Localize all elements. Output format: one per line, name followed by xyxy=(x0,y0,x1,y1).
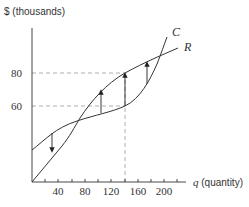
profit-arrows xyxy=(52,64,147,150)
curve-label-c: C xyxy=(172,25,181,39)
x-tick-120: 120 xyxy=(103,185,120,197)
x-tick-160: 160 xyxy=(130,185,147,197)
y-tick-80: 80 xyxy=(11,67,23,79)
revenue-curve-r xyxy=(32,48,178,182)
x-tick-80: 80 xyxy=(80,185,92,197)
x-tick-40: 40 xyxy=(53,185,65,197)
y-tick-60: 60 xyxy=(11,100,23,112)
axes xyxy=(32,28,186,182)
curve-label-r: R xyxy=(183,40,192,54)
chart: C R 80 60 40 80 120 160 200 xyxy=(0,0,249,207)
x-tick-200: 200 xyxy=(156,185,173,197)
